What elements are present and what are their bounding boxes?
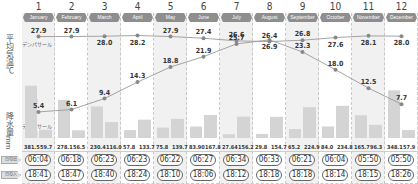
temp-point — [202, 36, 206, 40]
temp-point — [37, 110, 41, 114]
temp-value: 28.1 — [361, 39, 377, 47]
sunrise-time: 06:04 — [25, 154, 51, 166]
bar-denpasar — [157, 128, 169, 138]
temp-value: 26.8 — [295, 30, 311, 38]
sunrise-time: 06:18 — [58, 154, 84, 166]
temp-point — [70, 108, 74, 112]
temp-value: 28.0 — [394, 39, 410, 47]
bar-label-tokyo: 133.7 — [139, 144, 155, 150]
bar-denpasar — [289, 129, 301, 138]
temp-value: 27.9 — [31, 27, 47, 35]
bar-tokyo — [39, 130, 52, 138]
temp-value: 23.3 — [295, 42, 311, 50]
sunset-time: 18:14 — [322, 169, 348, 181]
temp-value: 21.9 — [196, 47, 212, 55]
temp-value: 5.4 — [33, 102, 45, 110]
sunrise-time: 06:23 — [124, 154, 150, 166]
temp-value: 9.4 — [99, 89, 111, 97]
temp-point — [202, 55, 206, 59]
temp-value: 27.4 — [196, 28, 212, 36]
bar-tokyo — [402, 130, 415, 138]
bar-tokyo — [336, 106, 349, 138]
bar-label-denpasar: 84.0 — [321, 144, 334, 150]
bar-label-denpasar: 65.2 — [288, 144, 301, 150]
temp-point — [367, 86, 371, 90]
bar-label-tokyo: 57.9 — [403, 144, 416, 150]
temp-value: 6.1 — [66, 100, 77, 108]
sunset-time: 18:06 — [190, 169, 216, 181]
temp-point — [301, 50, 305, 54]
bar-label-tokyo: 116.0 — [106, 144, 122, 150]
bar-tokyo — [369, 125, 382, 138]
bar-label-denpasar: 230.4 — [90, 144, 106, 150]
divider-bottom — [22, 183, 418, 184]
divider — [22, 151, 418, 152]
bar-label-denpasar: 381.5 — [24, 144, 40, 150]
temp-value: 12.5 — [361, 78, 377, 86]
bar-label-denpasar: 75.8 — [156, 144, 169, 150]
bar-label-tokyo: 167.8 — [205, 144, 221, 150]
bar-tokyo — [105, 122, 118, 138]
bar-label-tokyo: 96.3 — [370, 144, 383, 150]
sunrise-time: 05:50 — [355, 154, 381, 166]
temp-line — [39, 36, 402, 42]
bar-label-tokyo: 224.9 — [304, 144, 320, 150]
sunrise-time: 06:34 — [223, 154, 249, 166]
temp-value: 25.7 — [229, 34, 245, 42]
temp-point — [334, 68, 338, 72]
bar-label-denpasar: 83.90 — [189, 144, 205, 150]
sunset-time: 18:26 — [388, 169, 414, 181]
bar-denpasar — [322, 126, 334, 138]
bar-label-tokyo: 234.8 — [337, 144, 353, 150]
bar-label-tokyo: 139.7 — [172, 144, 188, 150]
sunset-time: 18:18 — [289, 169, 315, 181]
temp-point — [37, 35, 41, 39]
sunrise-time: 06:27 — [190, 154, 216, 166]
bar-label-denpasar: 348.1 — [387, 144, 403, 150]
bar-label-denpasar: 27.64 — [222, 144, 238, 150]
bar-denpasar — [124, 130, 136, 138]
temp-value: 28.2 — [130, 39, 146, 47]
sunrise-label: 日の出 — [1, 156, 21, 164]
bar-label-tokyo: 59.7 — [40, 144, 53, 150]
temp-point — [400, 102, 404, 106]
sunrise-time: 06:22 — [157, 154, 183, 166]
temp-value: 27.9 — [64, 27, 80, 35]
bar-tokyo — [237, 117, 250, 138]
bar-tokyo — [138, 120, 151, 138]
temp-point — [400, 34, 404, 38]
temp-point — [268, 38, 272, 42]
temp-value: 27.6 — [328, 41, 344, 49]
temp-value: 18.8 — [163, 57, 179, 65]
sunset-label: 日の入 — [1, 171, 21, 179]
sunrise-time: 06:23 — [91, 154, 117, 166]
sunrise-time: 06:04 — [322, 154, 348, 166]
sunset-time: 18:40 — [91, 169, 117, 181]
sunset-time: 18:47 — [58, 169, 84, 181]
temp-point — [169, 65, 173, 69]
sunset-time: 18:18 — [256, 169, 282, 181]
sunset-time: 18:41 — [25, 169, 51, 181]
bar-tokyo — [303, 107, 316, 138]
temp-line — [39, 40, 402, 112]
temp-point — [235, 42, 239, 46]
temp-point — [103, 34, 107, 38]
bar-label-tokyo: 56.5 — [73, 144, 86, 150]
bar-label-denpasar: 165.7 — [354, 144, 370, 150]
bar-denpasar — [355, 115, 367, 138]
temp-point — [169, 35, 173, 39]
sunset-time: 18:24 — [124, 169, 150, 181]
temp-point — [136, 80, 140, 84]
temp-value: 7.7 — [396, 94, 407, 102]
bar-denpasar — [223, 134, 235, 138]
bar-label-denpasar: 29.8 — [255, 144, 268, 150]
sunset-time: 18:10 — [157, 169, 183, 181]
temp-value: 28.0 — [97, 39, 113, 47]
temp-point — [367, 34, 371, 38]
bar-label-tokyo: 156.2 — [238, 144, 254, 150]
temp-value: 14.3 — [130, 72, 146, 80]
bar-tokyo — [204, 115, 217, 138]
bar-tokyo — [171, 119, 184, 138]
temp-point — [136, 34, 140, 38]
bar-tokyo — [72, 130, 85, 138]
